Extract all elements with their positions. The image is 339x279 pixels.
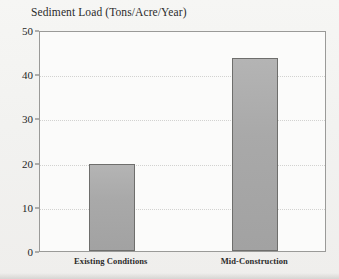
- y-axis: 01020304050: [0, 31, 39, 252]
- y-axis-tick-label: 0: [28, 246, 34, 258]
- x-axis-tick-label: Existing Conditions: [74, 256, 147, 266]
- y-axis-tick-label: 40: [22, 69, 33, 81]
- chart-figure: Sediment Load (Tons/Acre/Year) 010203040…: [0, 0, 339, 279]
- gridline: [40, 120, 325, 121]
- bar: [232, 58, 278, 251]
- y-axis-tick-label: 20: [22, 158, 33, 170]
- chart-title: Sediment Load (Tons/Acre/Year): [31, 6, 187, 18]
- y-axis-tick-label: 50: [22, 25, 33, 37]
- y-axis-tick-label: 30: [22, 113, 33, 125]
- y-axis-tick-label: 10: [22, 202, 33, 214]
- gridline: [40, 76, 325, 77]
- plot-area: [39, 31, 326, 252]
- gridline: [40, 209, 325, 210]
- x-axis-tick-label: Mid-Construction: [221, 256, 288, 266]
- gridline: [40, 165, 325, 166]
- bar: [89, 164, 135, 251]
- x-axis: Existing ConditionsMid-Construction: [39, 256, 326, 276]
